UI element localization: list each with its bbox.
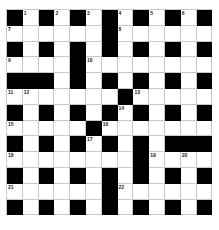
answer-cell[interactable]: 14 <box>118 105 134 121</box>
answer-cell[interactable] <box>118 152 134 168</box>
answer-cell[interactable] <box>197 152 213 168</box>
answer-cell[interactable]: 9 <box>7 57 23 73</box>
answer-cell[interactable] <box>149 26 165 42</box>
answer-cell[interactable] <box>39 26 55 42</box>
answer-cell[interactable] <box>181 26 197 42</box>
answer-cell[interactable] <box>197 26 213 42</box>
answer-cell[interactable] <box>165 152 181 168</box>
answer-cell[interactable]: 16 <box>102 121 118 137</box>
answer-cell[interactable] <box>149 42 165 58</box>
answer-cell[interactable] <box>133 121 149 137</box>
answer-cell[interactable] <box>54 57 70 73</box>
answer-cell[interactable] <box>54 89 70 105</box>
answer-cell[interactable] <box>181 200 197 216</box>
answer-cell[interactable]: 5 <box>149 10 165 26</box>
answer-cell[interactable] <box>165 57 181 73</box>
answer-cell[interactable] <box>23 121 39 137</box>
answer-cell[interactable] <box>133 26 149 42</box>
answer-cell[interactable] <box>149 184 165 200</box>
answer-cell[interactable] <box>23 200 39 216</box>
answer-cell[interactable]: 2 <box>54 10 70 26</box>
answer-cell[interactable] <box>181 168 197 184</box>
answer-cell[interactable] <box>54 73 70 89</box>
answer-cell[interactable] <box>149 200 165 216</box>
answer-cell[interactable] <box>54 26 70 42</box>
answer-cell[interactable] <box>70 121 86 137</box>
answer-cell[interactable]: 1 <box>23 10 39 26</box>
answer-cell[interactable] <box>149 105 165 121</box>
answer-cell[interactable]: 4 <box>118 10 134 26</box>
answer-cell[interactable] <box>54 105 70 121</box>
answer-cell[interactable] <box>197 89 213 105</box>
answer-cell[interactable] <box>118 57 134 73</box>
answer-cell[interactable]: 3 <box>86 10 102 26</box>
answer-cell[interactable] <box>54 168 70 184</box>
answer-cell[interactable] <box>149 121 165 137</box>
answer-cell[interactable] <box>102 89 118 105</box>
answer-cell[interactable] <box>86 42 102 58</box>
answer-cell[interactable] <box>181 89 197 105</box>
answer-cell[interactable] <box>165 184 181 200</box>
answer-cell[interactable] <box>54 121 70 137</box>
answer-cell[interactable]: 15 <box>7 121 23 137</box>
answer-cell[interactable] <box>149 136 165 152</box>
answer-cell[interactable] <box>39 57 55 73</box>
answer-cell[interactable] <box>181 184 197 200</box>
answer-cell[interactable] <box>118 73 134 89</box>
answer-cell[interactable]: 21 <box>7 184 23 200</box>
answer-cell[interactable]: 13 <box>133 89 149 105</box>
answer-cell[interactable] <box>197 184 213 200</box>
answer-cell[interactable] <box>70 89 86 105</box>
answer-cell[interactable] <box>197 57 213 73</box>
answer-cell[interactable]: 22 <box>118 184 134 200</box>
answer-cell[interactable] <box>54 42 70 58</box>
answer-cell[interactable]: 7 <box>7 26 23 42</box>
answer-cell[interactable] <box>133 184 149 200</box>
answer-cell[interactable]: 6 <box>181 10 197 26</box>
answer-cell[interactable] <box>181 42 197 58</box>
answer-cell[interactable] <box>54 152 70 168</box>
answer-cell[interactable] <box>197 121 213 137</box>
answer-cell[interactable] <box>23 168 39 184</box>
answer-cell[interactable] <box>149 73 165 89</box>
answer-cell[interactable] <box>165 26 181 42</box>
answer-cell[interactable] <box>133 57 149 73</box>
answer-cell[interactable]: 17 <box>86 136 102 152</box>
answer-cell[interactable] <box>86 89 102 105</box>
answer-cell[interactable] <box>86 105 102 121</box>
answer-cell[interactable] <box>70 152 86 168</box>
answer-cell[interactable] <box>39 152 55 168</box>
answer-cell[interactable] <box>86 152 102 168</box>
answer-cell[interactable] <box>165 121 181 137</box>
answer-cell[interactable] <box>23 57 39 73</box>
answer-cell[interactable] <box>70 26 86 42</box>
answer-cell[interactable]: 19 <box>149 152 165 168</box>
answer-cell[interactable]: 8 <box>118 26 134 42</box>
answer-cell[interactable] <box>54 200 70 216</box>
answer-cell[interactable] <box>118 136 134 152</box>
answer-cell[interactable] <box>23 136 39 152</box>
answer-cell[interactable] <box>149 168 165 184</box>
answer-cell[interactable] <box>54 136 70 152</box>
answer-cell[interactable] <box>70 184 86 200</box>
answer-cell[interactable] <box>23 184 39 200</box>
answer-cell[interactable] <box>181 105 197 121</box>
answer-cell[interactable] <box>165 89 181 105</box>
answer-cell[interactable] <box>118 42 134 58</box>
answer-cell[interactable] <box>118 200 134 216</box>
answer-cell[interactable] <box>149 57 165 73</box>
answer-cell[interactable] <box>86 26 102 42</box>
answer-cell[interactable] <box>86 200 102 216</box>
answer-cell[interactable] <box>102 152 118 168</box>
answer-cell[interactable] <box>23 26 39 42</box>
answer-cell[interactable] <box>181 121 197 137</box>
answer-cell[interactable] <box>39 184 55 200</box>
answer-cell[interactable]: 10 <box>86 57 102 73</box>
answer-cell[interactable] <box>23 42 39 58</box>
answer-cell[interactable] <box>102 57 118 73</box>
answer-cell[interactable] <box>23 152 39 168</box>
answer-cell[interactable] <box>39 121 55 137</box>
answer-cell[interactable] <box>118 121 134 137</box>
answer-cell[interactable]: 12 <box>23 89 39 105</box>
answer-cell[interactable] <box>181 57 197 73</box>
